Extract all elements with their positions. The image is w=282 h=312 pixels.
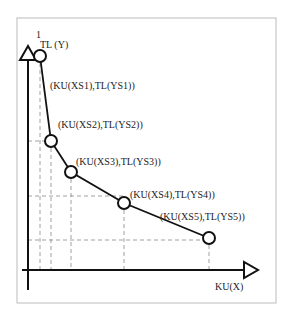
point-label-5: (KU(XS5),TL(YS5)) (160, 212, 245, 222)
point-label-3: (KU(XS3),TL(YS3)) (76, 157, 161, 167)
point-label-4: (KU(XS4),TL(YS4)) (130, 190, 215, 200)
point-label-1: (KU(XS1),TL(YS1)) (50, 81, 135, 91)
x-axis-label: KU(X) (215, 282, 243, 292)
x-axis-arrow-icon (244, 262, 258, 278)
y-axis-label: TL (Y) (40, 40, 68, 50)
point-label-2: (KU(XS2),TL(YS2)) (58, 120, 143, 130)
